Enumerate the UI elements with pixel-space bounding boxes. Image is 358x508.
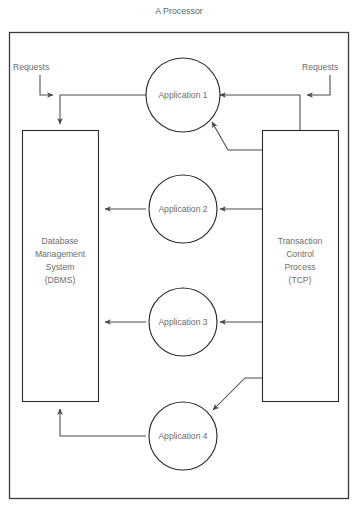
app2-label: Application 2 xyxy=(158,204,207,214)
dbms-label-line-1: Database xyxy=(42,236,79,246)
requests-left-label: Requests xyxy=(13,62,49,72)
connector-requests-left-in xyxy=(40,75,53,95)
tcp-label-line-1: Transaction xyxy=(278,236,323,246)
dbms-label-line-3: System xyxy=(46,262,75,272)
processor-diagram: A Processor Database Management System (… xyxy=(0,0,358,508)
diagram-title: A Processor xyxy=(155,6,202,16)
connector-tcp-to-app4 xyxy=(213,378,262,410)
connector-tcp-to-app1 xyxy=(212,122,262,150)
connector-requests-right-in xyxy=(307,75,330,95)
app3-label: Application 3 xyxy=(158,317,207,327)
requests-right-label: Requests xyxy=(302,62,338,72)
dbms-label-line-4: (DBMS) xyxy=(45,275,76,285)
tcp-label-line-3: Process xyxy=(284,262,315,272)
tcp-label-line-2: Control xyxy=(286,249,314,259)
tcp-label-line-4: (TCP) xyxy=(289,275,312,285)
connector-app4-to-dbms xyxy=(60,409,146,436)
dbms-label-line-2: Management xyxy=(35,249,86,259)
app1-label: Application 1 xyxy=(158,90,207,100)
diagram-canvas: A Processor Database Management System (… xyxy=(0,0,358,508)
app4-label: Application 4 xyxy=(158,431,207,441)
